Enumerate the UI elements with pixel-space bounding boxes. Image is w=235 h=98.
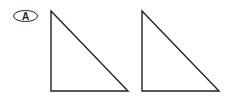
label-text: A bbox=[22, 11, 29, 22]
triangle-left bbox=[51, 11, 128, 91]
triangle-right bbox=[142, 11, 219, 91]
diagram-canvas: A bbox=[0, 0, 235, 98]
label-badge: A bbox=[14, 11, 38, 22]
